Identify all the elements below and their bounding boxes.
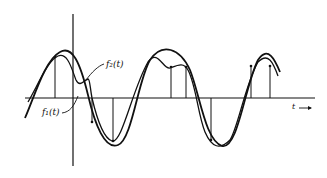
f2-leader — [86, 64, 104, 80]
f1-label: f₁(t) — [42, 108, 60, 117]
sample-lines — [55, 57, 270, 141]
t-arrow-head — [308, 106, 312, 110]
f2-label: f₂(t) — [106, 60, 124, 69]
f2-curve — [28, 55, 278, 146]
waveform-diagram — [0, 0, 327, 178]
t-axis-label: t — [292, 103, 295, 111]
sample-points — [54, 56, 272, 143]
